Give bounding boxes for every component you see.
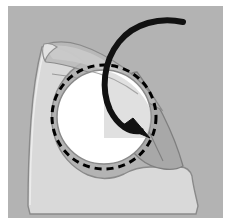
surgical-flap-illustration <box>0 0 231 224</box>
figure-container: Surgical flap rotation diagram Medical l… <box>0 0 231 224</box>
